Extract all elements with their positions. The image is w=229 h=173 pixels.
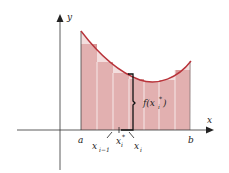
label-x-prev-sub: i−1 [99, 146, 110, 153]
x-i-pointer [129, 132, 134, 138]
x-axis-label: x [207, 115, 212, 125]
label-f-x-star-sub: i [158, 103, 160, 110]
label-x-star-sup: * [122, 133, 125, 140]
label-x-i: x [134, 141, 139, 151]
label-x-star-sub: i [121, 141, 123, 148]
riemann-sum-diagram: y x a b x i−1 x i * x i f(x i * ) [0, 0, 229, 173]
label-x-i-sub: i [140, 146, 142, 153]
label-b: b [188, 135, 194, 145]
y-axis-arrow-icon [57, 14, 64, 22]
rectangles [81, 31, 191, 130]
label-a: a [78, 135, 83, 145]
y-axis-label: y [66, 12, 73, 22]
label-x-prev: x [92, 141, 97, 151]
x-prev-pointer [107, 132, 112, 138]
label-f-x-star-close: ) [162, 98, 167, 108]
label-f-x-star-sup: * [159, 95, 162, 102]
label-f-x-star: f(x [142, 98, 155, 108]
x-axis-arrow-icon [206, 127, 214, 134]
